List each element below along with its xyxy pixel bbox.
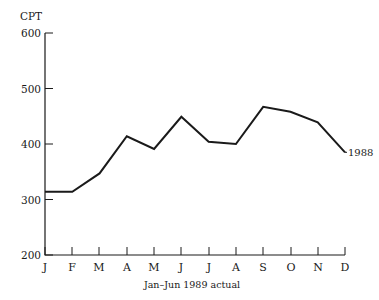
x-axis-ticks [45, 247, 345, 255]
y-tick-label-200: 200 [21, 249, 41, 261]
x-tick-label-mar: M [93, 261, 104, 274]
y-tick-label-400: 400 [21, 138, 41, 150]
line-chart: CPT 600 500 400 300 200 [0, 0, 379, 300]
y-axis-unit-label: CPT [20, 10, 42, 22]
y-tick-label-300: 300 [21, 194, 41, 206]
x-axis-tick-labels: J F M A M J J A S O N D [42, 261, 350, 274]
axis-lines [45, 33, 345, 255]
y-tick-label-500: 500 [21, 83, 41, 95]
series-label-1988: 1988 [348, 147, 373, 158]
x-tick-label-sep: S [259, 261, 267, 274]
x-tick-label-jun: J [178, 261, 183, 274]
x-tick-label-may: M [148, 261, 159, 274]
x-tick-label-jul: J [206, 261, 211, 274]
y-axis-ticks [45, 33, 53, 255]
x-tick-label-feb: F [68, 261, 76, 274]
y-axis-tick-labels: 600 500 400 300 200 [21, 27, 41, 261]
chart-container: CPT 600 500 400 300 200 [0, 0, 379, 300]
x-tick-label-nov: N [313, 261, 323, 274]
x-axis-caption: Jan–Jun 1989 actual [143, 279, 240, 290]
x-tick-label-oct: O [286, 261, 295, 274]
x-tick-label-apr: A [122, 261, 132, 274]
data-series-1988 [45, 107, 345, 192]
y-tick-label-600: 600 [21, 27, 41, 39]
x-tick-label-aug: A [231, 261, 241, 274]
x-tick-label-dec: D [341, 261, 350, 274]
x-tick-label-jan: J [42, 261, 47, 274]
